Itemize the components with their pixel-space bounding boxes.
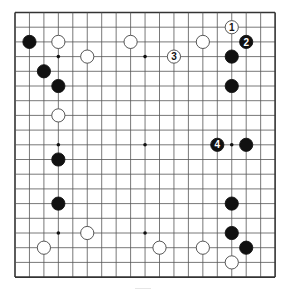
star-point	[57, 143, 61, 147]
star-point	[143, 143, 147, 147]
move-number: 1	[229, 22, 235, 33]
move-1-white-stone[interactable]: 1	[225, 21, 238, 34]
star-point	[57, 231, 61, 235]
white-stone[interactable]	[124, 35, 137, 48]
move-3-white-stone[interactable]: 3	[167, 50, 180, 63]
black-stone[interactable]	[37, 65, 50, 78]
black-stone[interactable]	[23, 35, 36, 48]
star-point	[143, 231, 147, 235]
go-board[interactable]: 1234	[0, 0, 285, 295]
white-stone[interactable]	[225, 256, 238, 269]
white-stone[interactable]	[196, 241, 209, 254]
white-stone[interactable]	[52, 35, 65, 48]
star-point	[143, 55, 147, 59]
black-stone[interactable]	[225, 50, 238, 63]
move-number: 4	[215, 139, 221, 150]
caption-remnant	[135, 288, 151, 289]
move-number: 2	[243, 37, 249, 48]
black-stone[interactable]	[52, 153, 65, 166]
white-stone[interactable]	[153, 241, 166, 254]
black-stone[interactable]	[240, 138, 253, 151]
black-stone[interactable]	[225, 226, 238, 239]
move-4-black-stone[interactable]: 4	[211, 138, 224, 151]
white-stone[interactable]	[37, 241, 50, 254]
black-stone[interactable]	[240, 241, 253, 254]
white-stone[interactable]	[196, 35, 209, 48]
star-point	[57, 55, 61, 59]
white-stone[interactable]	[81, 226, 94, 239]
black-stone[interactable]	[52, 79, 65, 92]
move-number: 3	[171, 51, 177, 62]
black-stone[interactable]	[225, 79, 238, 92]
black-stone[interactable]	[52, 197, 65, 210]
move-2-black-stone[interactable]: 2	[240, 35, 253, 48]
black-stone[interactable]	[225, 197, 238, 210]
white-stone[interactable]	[81, 50, 94, 63]
star-point	[230, 143, 234, 147]
white-stone[interactable]	[52, 109, 65, 122]
